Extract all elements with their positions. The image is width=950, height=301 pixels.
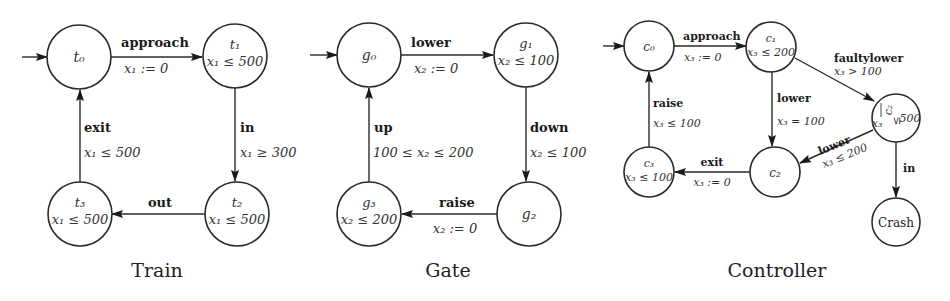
edge-faultylower-guard: x₃ > 100 bbox=[834, 65, 882, 78]
edge-approach-action: approach bbox=[121, 35, 189, 50]
edge-approach-action: approach bbox=[683, 30, 740, 43]
state-t3-label: t₃ bbox=[75, 195, 85, 210]
edge-exit-reset: x₃ := 0 bbox=[693, 176, 731, 189]
state-t3-invariant: x₁ ≤ 500 bbox=[52, 212, 109, 227]
state-g1-invariant: x₂ ≤ 100 bbox=[498, 53, 555, 68]
edge-down-guard: x₂ ≤ 100 bbox=[530, 145, 587, 160]
edge-lower-reset: x₂ := 0 bbox=[414, 61, 458, 76]
edge-approach-reset: x₃ := 0 bbox=[684, 51, 722, 64]
state-g1-label: g₁ bbox=[519, 36, 533, 51]
state-crash-label: Crash bbox=[878, 216, 914, 230]
caption-train: Train bbox=[131, 259, 182, 281]
state-t1-invariant: x₁ ≤ 500 bbox=[207, 54, 264, 69]
edge-exit-guard: x₁ ≤ 500 bbox=[84, 145, 141, 160]
state-g0-label: g₀ bbox=[362, 47, 377, 63]
state-g2-label: g₂ bbox=[522, 206, 537, 222]
edge-faultylower-action: faultylower bbox=[834, 52, 903, 65]
edge-approach-reset: x₁ := 0 bbox=[124, 61, 168, 76]
state-t0-label: t₀ bbox=[73, 49, 85, 65]
caption-gate: Gate bbox=[425, 259, 470, 281]
gate-automaton: g₀ g₁ x₂ ≤ 100 g₂ g₃ x₂ ≤ 200 lower x₂ :… bbox=[310, 23, 587, 281]
edge-up-action: up bbox=[374, 120, 393, 135]
train-automaton: t₀ t₁ x₁ ≤ 500 t₂ x₁ ≤ 500 t₃ x₁ ≤ 500 a… bbox=[22, 24, 297, 281]
edge-in-guard: x₁ ≥ 300 bbox=[240, 145, 297, 160]
state-t1-label: t₁ bbox=[230, 37, 240, 52]
state-c3-label: c₃ bbox=[644, 157, 655, 170]
state-g3-label: g₃ bbox=[362, 195, 376, 210]
edge-out-action: out bbox=[148, 195, 172, 210]
edge-up-guard: 100 ≤ x₂ ≤ 200 bbox=[373, 145, 473, 160]
state-c1-invariant: x₃ ≤ 200 bbox=[747, 46, 795, 59]
timed-automata-diagram: t₀ t₁ x₁ ≤ 500 t₂ x₁ ≤ 500 t₃ x₁ ≤ 500 a… bbox=[0, 0, 950, 301]
state-g3-invariant: x₂ ≤ 200 bbox=[341, 212, 398, 227]
edge-raise-reset: x₂ := 0 bbox=[433, 221, 477, 236]
state-c2bar-label: c₂ bbox=[882, 105, 895, 116]
edge-exit-action: exit bbox=[84, 120, 111, 135]
controller-automaton: c₀ c₁ x₃ ≤ 200 c₂ x₃ ≤ 500 c₂ c₃ x₃ ≤ 10… bbox=[603, 21, 921, 281]
edge-down-action: down bbox=[530, 120, 569, 135]
edge-lower-c1-c2-guard: x₃ = 100 bbox=[777, 115, 825, 128]
edge-exit-action: exit bbox=[701, 156, 725, 169]
edge-in-action: in bbox=[903, 162, 915, 175]
state-c0-label: c₀ bbox=[643, 40, 655, 54]
edge-in-action: in bbox=[240, 120, 255, 135]
state-c2bar-x3: x₃ bbox=[872, 117, 883, 130]
state-t2-label: t₂ bbox=[232, 195, 242, 210]
edge-lower-action: lower bbox=[411, 35, 451, 50]
edge-raise-action: raise bbox=[439, 195, 475, 210]
state-c1-label: c₁ bbox=[766, 32, 777, 45]
caption-controller: Controller bbox=[728, 259, 828, 281]
state-c2bar-rotated-text: c₂ bbox=[881, 103, 895, 117]
state-c3-invariant: x₃ ≤ 100 bbox=[625, 171, 673, 184]
state-c2bar-invariant-value: 500 bbox=[900, 112, 921, 125]
edge-raise-action: raise bbox=[653, 97, 683, 110]
edge-lower-c1-c2-action: lower bbox=[777, 92, 811, 105]
state-t2-invariant: x₁ ≤ 500 bbox=[209, 212, 266, 227]
state-c2-label: c₂ bbox=[769, 166, 781, 180]
edge-raise-guard: x₃ ≤ 100 bbox=[653, 117, 701, 130]
